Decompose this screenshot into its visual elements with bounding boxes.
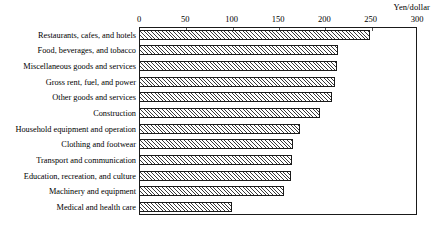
bar: [139, 77, 335, 87]
x-axis-tick-labels: 050100150200250300: [0, 14, 438, 26]
bar-row: Food, beverages, and tobacco: [0, 43, 438, 59]
bar: [139, 92, 332, 102]
bar-row: Machinery and equipment: [0, 184, 438, 200]
bar-row: Construction: [0, 105, 438, 121]
category-label: Machinery and equipment: [49, 187, 139, 196]
x-tick-label: 0: [137, 14, 141, 24]
category-label: Education, recreation, and culture: [24, 171, 139, 180]
bar: [139, 171, 291, 181]
axis-unit-caption: Yen/dollar: [394, 2, 431, 12]
x-tick-label: 250: [364, 14, 377, 24]
bar: [139, 202, 232, 212]
bar: [139, 108, 320, 118]
bar-row: Household equipment and operation: [0, 121, 438, 137]
bar-track: [139, 74, 417, 90]
bar: [139, 61, 337, 71]
bar-row: Miscellaneous goods and services: [0, 58, 438, 74]
x-tick-label: 150: [272, 14, 285, 24]
bar-row: Transport and communication: [0, 152, 438, 168]
bar-track: [139, 58, 417, 74]
bar-row: Education, recreation, and culture: [0, 168, 438, 184]
category-label: Restaurants, cafes, and hotels: [38, 30, 139, 39]
bar-track: [139, 137, 417, 153]
category-label: Medical and health care: [57, 203, 139, 212]
category-label: Transport and communication: [36, 156, 139, 165]
category-label: Food, beverages, and tobacco: [38, 46, 139, 55]
bar-track: [139, 184, 417, 200]
bar: [139, 30, 370, 40]
bar-track: [139, 168, 417, 184]
bar: [139, 186, 284, 196]
bar-row: Medical and health care: [0, 199, 438, 215]
bar-track: [139, 199, 417, 215]
bar-track: [139, 27, 417, 43]
bar-track: [139, 90, 417, 106]
x-tick-label: 300: [411, 14, 424, 24]
bar-row: Restaurants, cafes, and hotels: [0, 27, 438, 43]
x-tick-label: 50: [181, 14, 190, 24]
x-tick-label: 200: [318, 14, 331, 24]
bar-row: Clothing and footwear: [0, 137, 438, 153]
bar: [139, 124, 300, 134]
bar-track: [139, 121, 417, 137]
category-label: Miscellaneous goods and services: [23, 62, 139, 71]
bar: [139, 155, 292, 165]
bar-track: [139, 105, 417, 121]
bar-track: [139, 152, 417, 168]
category-label: Other goods and services: [52, 93, 139, 102]
bar-chart: Yen/dollar 050100150200250300 Restaurant…: [0, 0, 438, 240]
bar: [139, 45, 338, 55]
bar-row: Gross rent, fuel, and power: [0, 74, 438, 90]
bar-rows: Restaurants, cafes, and hotelsFood, beve…: [0, 27, 438, 215]
category-label: Construction: [93, 109, 139, 118]
bar-track: [139, 43, 417, 59]
bar: [139, 139, 293, 149]
x-tick-label: 100: [225, 14, 238, 24]
category-label: Household equipment and operation: [15, 124, 139, 133]
bar-row: Other goods and services: [0, 90, 438, 106]
category-label: Clothing and footwear: [61, 140, 139, 149]
category-label: Gross rent, fuel, and power: [46, 77, 139, 86]
